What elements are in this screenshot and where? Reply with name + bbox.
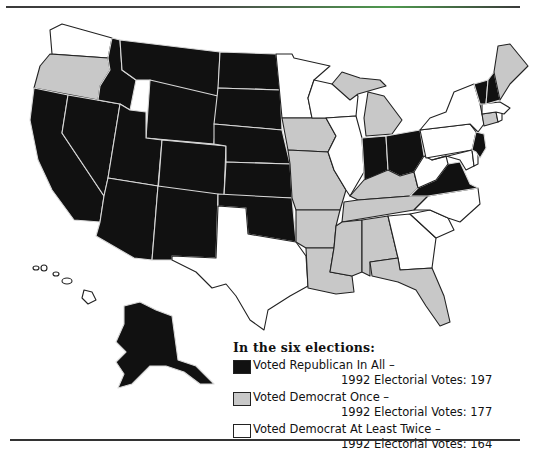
state-IA[interactable]: [282, 118, 336, 152]
state-ND[interactable]: [218, 52, 280, 90]
swatch-democrat-twice: [233, 424, 251, 438]
state-ME[interactable]: [494, 44, 528, 100]
state-NM[interactable]: [152, 186, 218, 260]
state-WA[interactable]: [50, 24, 112, 58]
legend-label: Voted Democrat Once –: [253, 390, 389, 404]
state-AK[interactable]: [116, 302, 214, 388]
legend-item-republican-all: Voted Republican In All – 1992 Electoria…: [233, 358, 533, 390]
state-AZ[interactable]: [96, 178, 158, 260]
legend-label: Voted Republican In All –: [253, 358, 395, 372]
state-NY[interactable]: [420, 84, 484, 132]
swatch-republican-all: [233, 360, 251, 374]
state-AR[interactable]: [296, 210, 340, 248]
state-MI[interactable]: [364, 92, 402, 136]
bottom-rule: [10, 439, 520, 441]
state-KS[interactable]: [224, 162, 292, 198]
legend-item-democrat-once: Voted Democrat Once – 1992 Electorial Vo…: [233, 390, 533, 422]
legend-electoral-votes: 1992 Electorial Votes: 177: [341, 405, 492, 419]
legend-item-democrat-twice: Voted Democrat At Least Twice – 1992 Ele…: [233, 422, 533, 451]
swatch-democrat-once: [233, 392, 251, 406]
legend-electoral-votes: 1992 Electorial Votes: 197: [341, 373, 492, 387]
legend-label: Voted Democrat At Least Twice –: [253, 422, 441, 436]
state-HI[interactable]: [33, 265, 96, 304]
state-SD[interactable]: [214, 88, 282, 130]
legend-title: In the six elections:: [233, 340, 533, 355]
legend: In the six elections: Voted Republican I…: [233, 340, 533, 451]
